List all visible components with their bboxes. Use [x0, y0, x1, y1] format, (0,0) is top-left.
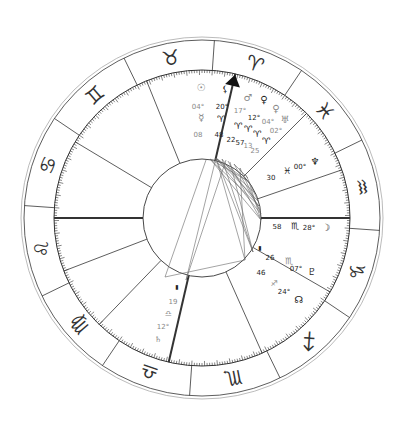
degree-tick: [310, 119, 312, 121]
degree-tick: [296, 326, 299, 330]
degree-tick: [66, 160, 69, 161]
degree-tick: [324, 297, 327, 299]
degree-tick: [283, 338, 285, 340]
degree-tick: [241, 355, 242, 360]
sign-boundary-line: [325, 301, 350, 318]
degree-tick: [289, 100, 291, 102]
degree-tick: [341, 175, 344, 176]
degree-tick: [147, 352, 148, 355]
degree-tick: [301, 112, 304, 116]
degree-tick: [156, 356, 157, 359]
degree-tick: [342, 180, 345, 181]
sign-glyph-scorpio-icon: ♏: [222, 365, 244, 392]
degree-tick: [78, 137, 81, 139]
degree-tick: [105, 327, 107, 329]
degree-tick: [139, 84, 140, 87]
planet-label: ♆: [311, 156, 320, 167]
degree-tick: [73, 288, 76, 289]
degree-tick: [344, 248, 347, 249]
degree-tick: [149, 353, 150, 356]
degree-tick: [55, 233, 60, 234]
planet-label: 20°: [216, 103, 228, 111]
degree-tick: [237, 359, 238, 362]
degree-tick: [279, 92, 281, 95]
degree-tick: [247, 77, 248, 80]
degree-tick: [94, 317, 96, 319]
sign-boundary-line: [285, 70, 302, 95]
degree-tick: [325, 142, 329, 145]
degree-tick: [327, 287, 331, 289]
degree-tick: [60, 260, 63, 261]
degree-tick: [321, 301, 323, 303]
degree-tick: [90, 312, 94, 315]
degree-tick: [232, 360, 233, 363]
degree-tick: [343, 182, 346, 183]
degree-tick: [57, 187, 60, 188]
degree-tick: [60, 257, 65, 258]
planet-label: 25: [251, 147, 260, 155]
sign-boundary-line: [350, 228, 380, 230]
degree-tick: [337, 265, 342, 267]
degree-tick: [281, 94, 283, 97]
degree-tick: [164, 358, 165, 361]
degree-tick: [334, 158, 337, 159]
degree-tick: [58, 253, 61, 254]
planet-label: 04°: [262, 118, 274, 126]
degree-tick: [139, 349, 140, 352]
planet-label: 24°: [278, 288, 290, 296]
degree-tick: [128, 90, 130, 93]
degree-tick: [135, 86, 136, 89]
degree-tick: [263, 84, 264, 87]
degree-tick: [66, 275, 69, 276]
degree-tick: [331, 284, 334, 285]
degree-tick: [342, 190, 347, 191]
house-cusp-line: [75, 142, 151, 188]
degree-tick: [299, 108, 301, 110]
degree-tick: [68, 279, 71, 280]
planet-label: ♈: [244, 124, 253, 134]
degree-tick: [56, 195, 61, 196]
degree-tick: [331, 151, 334, 152]
degree-tick: [316, 307, 318, 309]
degree-tick: [137, 348, 138, 351]
planet-label: 07°: [290, 265, 302, 273]
sign-glyph-capricorn-icon: ♑: [342, 259, 371, 284]
planet-label: ☿: [198, 112, 204, 123]
degree-tick: [301, 324, 303, 326]
degree-tick: [240, 75, 241, 78]
degree-tick: [159, 357, 160, 360]
degree-tick: [336, 165, 341, 167]
degree-tick: [57, 245, 62, 246]
sign-boundary-line: [102, 341, 119, 366]
degree-tick: [336, 163, 339, 164]
degree-tick: [285, 337, 287, 339]
degree-tick: [76, 295, 79, 297]
degree-tick: [76, 140, 79, 142]
degree-tick: [329, 146, 332, 147]
sign-boundary-line: [335, 140, 362, 153]
planet-label: 12°: [157, 323, 169, 331]
inner-circle: [143, 159, 261, 277]
degree-tick: [176, 72, 177, 75]
degree-tick: [61, 172, 64, 173]
sign-boundary-line: [54, 118, 79, 135]
degree-tick: [344, 187, 347, 188]
degree-tick: [69, 153, 72, 154]
degree-tick: [330, 286, 333, 287]
degree-tick: [63, 268, 66, 269]
planet-label: ♈: [234, 121, 243, 131]
degree-tick: [345, 243, 348, 244]
degree-tick: [306, 115, 308, 117]
degree-tick: [229, 358, 230, 363]
degree-tick: [340, 263, 343, 264]
degree-tick: [63, 167, 66, 168]
degree-tick: [111, 332, 113, 334]
degree-tick: [310, 121, 314, 124]
degree-tick: [179, 359, 180, 364]
degree-tick: [344, 203, 349, 204]
degree-tick: [113, 334, 115, 336]
degree-tick: [59, 256, 62, 257]
planet-label: 12°: [248, 114, 260, 122]
degree-tick: [115, 335, 117, 337]
degree-tick: [299, 326, 301, 328]
